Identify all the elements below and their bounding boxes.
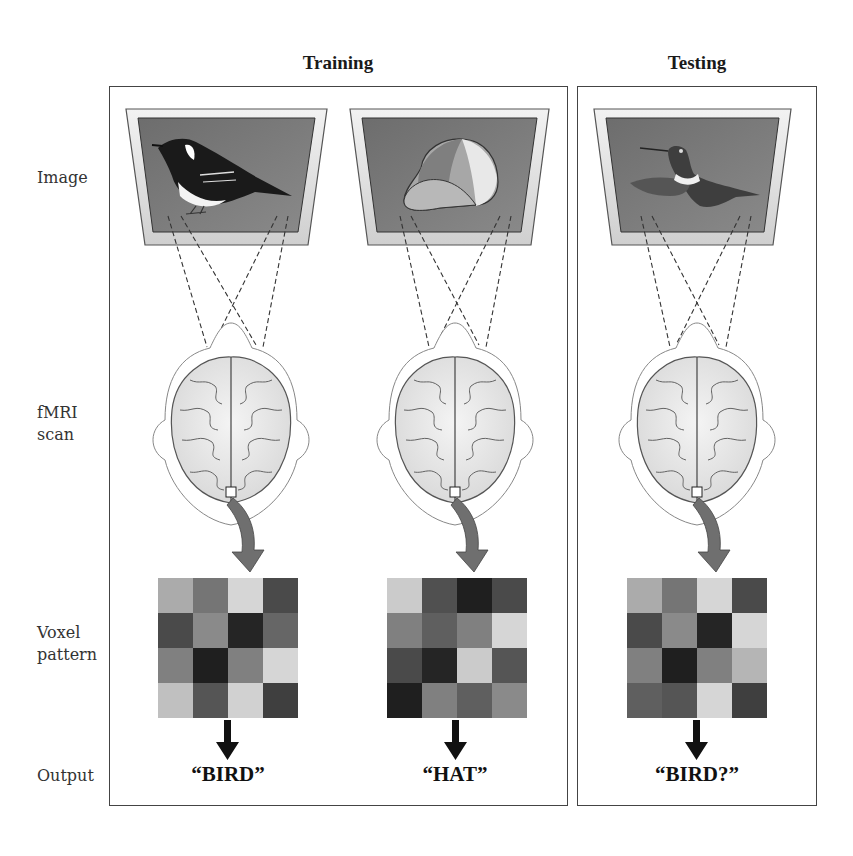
voxel-cell-r2-c0	[158, 648, 193, 683]
voxel-region-marker	[226, 487, 236, 497]
voxel-cell-r1-c1	[422, 613, 457, 648]
voxel-cell-r2-c1	[422, 648, 457, 683]
voxel-cell-r3-c2	[697, 683, 732, 718]
voxel-cell-r0-c3	[732, 578, 767, 613]
voxel-cell-r1-c2	[228, 613, 263, 648]
voxel-region-marker	[450, 487, 460, 497]
voxel-cell-r1-c0	[627, 613, 662, 648]
voxel-cell-r3-c1	[662, 683, 697, 718]
voxel-cell-r2-c3	[732, 648, 767, 683]
voxel-cell-r3-c3	[263, 683, 298, 718]
voxel-cell-r2-c1	[662, 648, 697, 683]
black-arrow	[444, 720, 467, 760]
voxel-cell-r3-c1	[422, 683, 457, 718]
voxel-cell-r0-c2	[228, 578, 263, 613]
voxel-cell-r0-c1	[662, 578, 697, 613]
voxel-cell-r2-c1	[193, 648, 228, 683]
voxel-grid-hat	[387, 578, 527, 718]
voxel-cell-r1-c1	[193, 613, 228, 648]
voxel-cell-r1-c0	[158, 613, 193, 648]
voxel-cell-r2-c2	[697, 648, 732, 683]
column-train-hat	[350, 109, 549, 760]
head-brain	[153, 323, 309, 525]
voxel-cell-r0-c3	[263, 578, 298, 613]
head-brain	[619, 323, 775, 525]
voxel-cell-r3-c3	[732, 683, 767, 718]
head-brain	[377, 323, 533, 525]
voxel-cell-r0-c2	[457, 578, 492, 613]
voxel-cell-r0-c0	[627, 578, 662, 613]
voxel-cell-r2-c0	[387, 648, 422, 683]
black-arrow	[685, 720, 708, 760]
voxel-cell-r1-c3	[732, 613, 767, 648]
voxel-cell-r0-c1	[422, 578, 457, 613]
black-arrow	[216, 720, 239, 760]
voxel-cell-r2-c3	[263, 648, 298, 683]
voxel-cell-r3-c3	[492, 683, 527, 718]
voxel-cell-r3-c1	[193, 683, 228, 718]
output-label-bird: “BIRD”	[128, 762, 328, 787]
voxel-cell-r0-c3	[492, 578, 527, 613]
voxel-cell-r3-c0	[158, 683, 193, 718]
voxel-cell-r2-c3	[492, 648, 527, 683]
output-label-hat: “HAT”	[355, 762, 555, 787]
voxel-cell-r2-c0	[627, 648, 662, 683]
voxel-region-marker	[692, 487, 702, 497]
voxel-grid-hummingbird	[627, 578, 767, 718]
voxel-cell-r1-c2	[697, 613, 732, 648]
voxel-cell-r0-c0	[387, 578, 422, 613]
voxel-cell-r3-c2	[457, 683, 492, 718]
voxel-cell-r1-c2	[457, 613, 492, 648]
diagram-graphics	[0, 0, 853, 856]
voxel-cell-r2-c2	[228, 648, 263, 683]
voxel-cell-r1-c0	[387, 613, 422, 648]
voxel-cell-r1-c3	[263, 613, 298, 648]
voxel-cell-r1-c3	[492, 613, 527, 648]
voxel-cell-r2-c2	[457, 648, 492, 683]
voxel-cell-r0-c1	[193, 578, 228, 613]
voxel-cell-r3-c0	[387, 683, 422, 718]
output-label-bird-question: “BIRD?”	[597, 762, 797, 787]
voxel-cell-r3-c0	[627, 683, 662, 718]
voxel-grid-bird	[158, 578, 298, 718]
voxel-cell-r0-c0	[158, 578, 193, 613]
voxel-cell-r0-c2	[697, 578, 732, 613]
column-test-hummingbird	[594, 109, 791, 760]
voxel-cell-r1-c1	[662, 613, 697, 648]
voxel-cell-r3-c2	[228, 683, 263, 718]
column-train-bird	[126, 109, 327, 760]
